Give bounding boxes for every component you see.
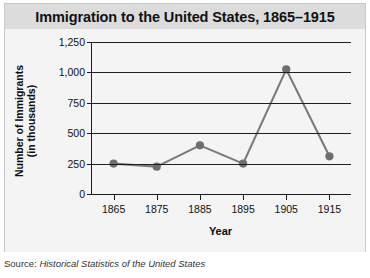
x-tick-label: 1885 (188, 203, 211, 215)
source-title: Historical Statistics of the United Stat… (39, 258, 205, 269)
chart-plot-body: Number of Immigrants (in thousands) 0250… (5, 29, 365, 252)
source-label: Source: (4, 258, 37, 269)
page-title: Immigration to the United States, 1865–1… (35, 9, 335, 25)
source-caption: Source: Historical Statistics of the Uni… (4, 258, 205, 269)
y-tick-mark (87, 42, 92, 43)
chart-title-band: Immigration to the United States, 1865–1… (5, 4, 365, 29)
y-axis-title-line1: Number of Immigrants (13, 65, 25, 177)
y-tick-mark (87, 164, 92, 165)
y-tick-mark (87, 72, 92, 73)
x-tick-label: 1865 (102, 203, 125, 215)
x-tick-label: 1905 (275, 203, 298, 215)
y-tick-mark (87, 103, 92, 104)
x-tick-mark (243, 194, 244, 200)
y-tick-label: 0 (41, 188, 85, 200)
x-axis-title: Year (91, 225, 350, 237)
data-point-marker (196, 141, 204, 149)
gridline (92, 103, 351, 104)
y-tick-label: 1,000 (41, 66, 85, 78)
y-tick-label: 750 (41, 97, 85, 109)
data-point-marker (325, 152, 333, 160)
y-tick-label: 250 (41, 158, 85, 170)
y-axis-tick-labels: 02505007501,0001,250 (37, 29, 85, 252)
y-axis-title: Number of Immigrants (in thousands) (13, 41, 37, 201)
x-tick-mark (329, 194, 330, 200)
plot-area: 186518751885189519051915 (91, 42, 351, 195)
y-axis-title-line2: (in thousands) (25, 65, 37, 177)
gridline (92, 133, 351, 134)
x-tick-mark (286, 194, 287, 200)
x-tick-mark (114, 194, 115, 200)
gridline (92, 72, 351, 73)
gridline (92, 42, 351, 43)
x-tick-mark (157, 194, 158, 200)
data-series-line (92, 42, 351, 194)
y-tick-mark (87, 194, 92, 195)
x-tick-label: 1915 (318, 203, 341, 215)
x-tick-label: 1895 (231, 203, 254, 215)
chart-figure: Immigration to the United States, 1865–1… (4, 3, 366, 252)
y-tick-mark (87, 133, 92, 134)
x-tick-mark (200, 194, 201, 200)
gridline (92, 164, 351, 165)
x-tick-label: 1875 (145, 203, 168, 215)
y-tick-label: 1,250 (41, 36, 85, 48)
y-tick-label: 500 (41, 127, 85, 139)
